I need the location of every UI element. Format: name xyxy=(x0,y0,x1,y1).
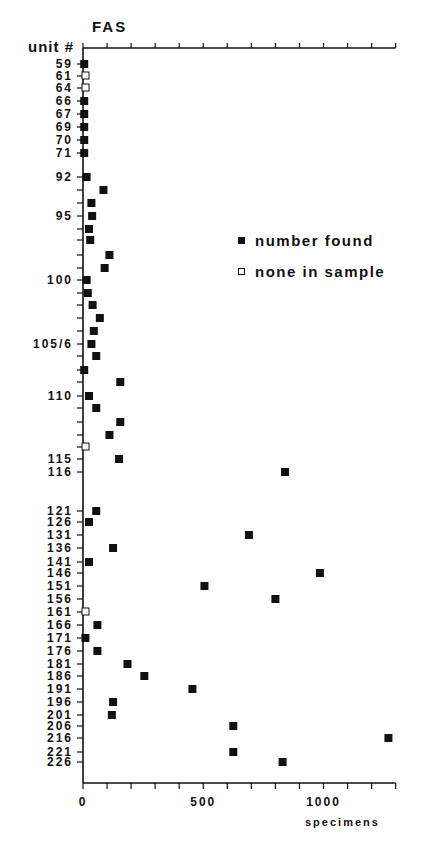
y-tick-label: 67 xyxy=(56,107,73,121)
data-point-found xyxy=(85,392,93,400)
data-point-found xyxy=(99,186,107,194)
y-tick-label: 136 xyxy=(47,541,73,555)
data-point-found xyxy=(85,225,93,233)
y-tick-label: 92 xyxy=(56,170,73,184)
legend-item-none: none in sample xyxy=(238,263,385,280)
data-point-found xyxy=(101,264,109,272)
data-point-found xyxy=(80,136,88,144)
data-point-found xyxy=(109,698,117,706)
y-tick-label: 186 xyxy=(47,669,73,683)
y-tick-label: 69 xyxy=(56,120,73,134)
data-point-found xyxy=(229,748,237,756)
data-point-none xyxy=(82,84,89,91)
x-axis-label: specimens xyxy=(305,816,380,828)
y-tick-label: 161 xyxy=(47,605,73,619)
data-point-found xyxy=(105,431,113,439)
y-tick-label: 131 xyxy=(47,528,73,542)
y-tick-label: 126 xyxy=(47,515,73,529)
data-point-found xyxy=(80,123,88,131)
data-point-found xyxy=(93,647,101,655)
data-point-found xyxy=(281,468,289,476)
data-point-found xyxy=(86,236,94,244)
legend: number found none in sample xyxy=(238,232,385,294)
chart-title: FAS xyxy=(92,18,127,35)
x-tick-label: 1000 xyxy=(306,795,341,809)
y-tick-label: 151 xyxy=(47,579,73,593)
y-tick-label: 171 xyxy=(47,631,73,645)
data-point-found xyxy=(88,212,96,220)
chart-area: 0500100059616466676970719295100105/61101… xyxy=(0,0,428,844)
filled-square-icon xyxy=(238,237,245,244)
x-tick-label: 0 xyxy=(79,795,88,809)
data-point-found xyxy=(116,378,124,386)
data-point-found xyxy=(115,455,123,463)
data-point-found xyxy=(140,672,148,680)
data-point-found xyxy=(316,569,324,577)
data-point-found xyxy=(93,621,101,629)
y-tick-label: 196 xyxy=(47,695,73,709)
data-point-found xyxy=(80,110,88,118)
data-point-found xyxy=(123,660,131,668)
data-point-found xyxy=(92,507,100,515)
x-tick-label: 500 xyxy=(190,795,216,809)
data-point-found xyxy=(83,276,91,284)
data-point-found xyxy=(87,340,95,348)
data-point-found xyxy=(85,518,93,526)
legend-label-found: number found xyxy=(255,232,374,249)
y-tick-label: 70 xyxy=(56,133,73,147)
y-tick-label: 166 xyxy=(47,618,73,632)
data-point-found xyxy=(116,418,124,426)
data-point-found xyxy=(271,595,279,603)
data-point-found xyxy=(188,685,196,693)
data-point-found xyxy=(92,352,100,360)
data-point-found xyxy=(80,366,88,374)
legend-label-none: none in sample xyxy=(255,263,385,280)
y-tick-label: 191 xyxy=(47,682,73,696)
y-tick-label: 66 xyxy=(56,94,73,108)
y-axis-label: unit # xyxy=(28,38,74,55)
y-tick-label: 226 xyxy=(47,755,73,769)
data-point-found xyxy=(81,634,89,642)
data-point-found xyxy=(229,722,237,730)
data-point-none xyxy=(82,443,89,450)
data-point-found xyxy=(83,173,91,181)
data-point-found xyxy=(85,558,93,566)
y-tick-label: 64 xyxy=(56,81,73,95)
y-tick-label: 116 xyxy=(48,465,73,479)
data-point-found xyxy=(109,544,117,552)
data-point-none xyxy=(82,72,89,79)
y-tick-label: 110 xyxy=(48,389,73,403)
y-tick-label: 100 xyxy=(47,273,73,287)
data-point-found xyxy=(384,734,392,742)
data-point-found xyxy=(80,149,88,157)
data-point-none xyxy=(82,608,89,615)
scatter-plot: 0500100059616466676970719295100105/61101… xyxy=(0,0,428,844)
data-point-found xyxy=(89,301,97,309)
y-tick-label: 115 xyxy=(48,452,73,466)
data-point-found xyxy=(96,314,104,322)
y-tick-label: 216 xyxy=(47,731,73,745)
legend-item-found: number found xyxy=(238,232,385,249)
data-point-found xyxy=(90,327,98,335)
y-tick-label: 146 xyxy=(47,566,73,580)
y-tick-label: 95 xyxy=(56,209,73,223)
open-square-icon xyxy=(238,268,245,275)
y-tick-label: 156 xyxy=(47,592,73,606)
data-point-found xyxy=(108,711,116,719)
data-point-found xyxy=(80,60,88,68)
data-point-found xyxy=(87,199,95,207)
y-tick-label: 176 xyxy=(47,644,73,658)
data-point-found xyxy=(245,531,253,539)
y-tick-label: 105/6 xyxy=(33,337,73,351)
data-point-found xyxy=(80,97,88,105)
data-point-found xyxy=(105,251,113,259)
data-point-found xyxy=(200,582,208,590)
data-point-found xyxy=(92,404,100,412)
data-point-found xyxy=(84,289,92,297)
data-point-found xyxy=(279,758,287,766)
y-tick-label: 71 xyxy=(56,146,73,160)
